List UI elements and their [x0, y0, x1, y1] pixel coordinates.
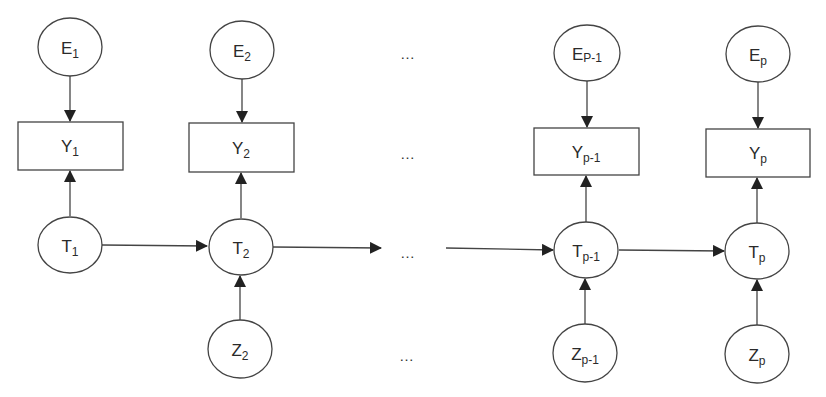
- label-z2: Z2: [231, 341, 248, 363]
- label-zp1: Zp-1: [571, 345, 599, 367]
- state-space-diagram: E1 E2 EP-1 Ep Y1 Y2 Yp-1 Yp T1 T2 Tp-1 T…: [0, 0, 826, 397]
- edge-t1-t2: [102, 245, 207, 246]
- label-ep1: EP-1: [572, 45, 602, 65]
- label-yp: Yp: [749, 144, 767, 166]
- ellipsis-row-t: …: [400, 244, 416, 261]
- label-ep: Ep: [749, 46, 767, 68]
- edge-t2-ellipsis: [273, 247, 381, 248]
- label-yp1: Yp-1: [572, 143, 601, 165]
- edge-ellipsis-tp1: [446, 248, 553, 250]
- ellipsis-row-y: …: [400, 145, 416, 162]
- ellipsis-row-e: …: [400, 45, 416, 62]
- label-y1: Y1: [61, 137, 79, 159]
- label-tp: Tp: [748, 243, 765, 265]
- label-e1: E1: [61, 39, 79, 61]
- label-t1: T1: [61, 237, 78, 259]
- ellipsis-row-z: …: [399, 347, 415, 364]
- label-zp: Zp: [748, 346, 765, 368]
- edge-tp1-tp: [619, 250, 724, 251]
- label-t2: T2: [232, 239, 249, 261]
- label-tp1: Tp-1: [572, 242, 600, 264]
- label-e2: E2: [233, 42, 251, 64]
- label-y2: Y2: [232, 139, 250, 161]
